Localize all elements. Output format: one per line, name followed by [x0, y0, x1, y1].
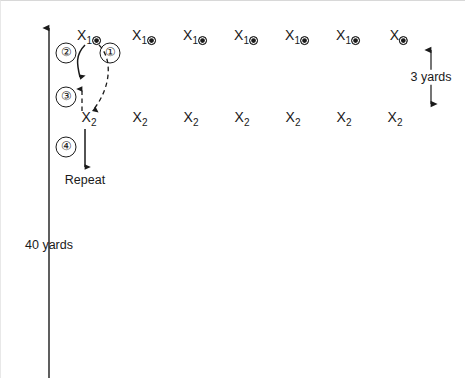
ball-icon: [351, 36, 360, 45]
marker-label: X: [235, 109, 244, 125]
player-marker: X1: [132, 28, 156, 46]
marker-label: X: [82, 109, 91, 125]
ball-icon: [300, 36, 309, 45]
step-badge-3: ③: [56, 87, 77, 108]
drill-diagram: X1 X1 X1 X1 X1 X1 X X2 X2 X2 X: [0, 0, 465, 378]
marker-sublabel: 2: [346, 117, 352, 128]
ball-icon: [198, 36, 207, 45]
player-marker: X2: [286, 110, 301, 128]
ball-icon: [399, 36, 408, 45]
marker-label: X: [183, 27, 192, 43]
step-2-path: [78, 45, 85, 77]
marker-label: X: [132, 27, 141, 43]
marker-label: X: [133, 109, 142, 125]
player-marker: X2: [82, 110, 97, 128]
player-marker: X1: [183, 28, 207, 46]
marker-sublabel: 2: [397, 117, 403, 128]
player-marker: X2: [235, 110, 250, 128]
marker-label: X: [390, 27, 399, 43]
player-marker: X2: [184, 110, 199, 128]
step-badge-2: ②: [56, 43, 77, 64]
marker-label: X: [286, 109, 295, 125]
player-marker: X1: [285, 28, 309, 46]
step-badge-1: ①: [100, 43, 121, 64]
player-marker: X1: [336, 28, 360, 46]
marker-label: X: [77, 27, 86, 43]
marker-label: X: [388, 109, 397, 125]
ball-icon: [92, 36, 101, 45]
marker-label: X: [234, 27, 243, 43]
player-marker: X1: [234, 28, 258, 46]
distance-3-yards-label: 3 yards: [409, 70, 454, 85]
marker-label: X: [337, 109, 346, 125]
distance-40-yards-label: 40 yards: [25, 239, 73, 252]
ball-icon: [147, 36, 156, 45]
ball-icon: [249, 36, 258, 45]
marker-sublabel: 2: [91, 117, 97, 128]
step-badge-4: ④: [56, 137, 77, 158]
player-marker: X: [390, 28, 408, 46]
marker-sublabel: 2: [142, 117, 148, 128]
marker-label: X: [285, 27, 294, 43]
marker-sublabel: 2: [295, 117, 301, 128]
marker-sublabel: 2: [193, 117, 199, 128]
marker-label: X: [184, 109, 193, 125]
player-marker: X2: [388, 110, 403, 128]
player-marker: X1: [77, 28, 101, 46]
marker-sublabel: 2: [244, 117, 250, 128]
marker-label: X: [336, 27, 345, 43]
repeat-label: Repeat: [65, 174, 105, 187]
player-marker: X2: [133, 110, 148, 128]
player-marker: X2: [337, 110, 352, 128]
